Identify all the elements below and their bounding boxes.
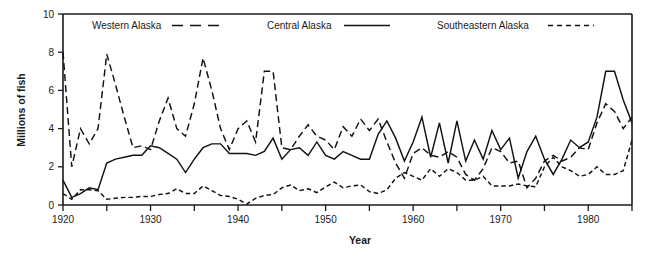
series-line-southeastern-alaska <box>63 140 632 204</box>
data-series-group <box>63 52 632 204</box>
legend-label-western-alaska: Western Alaska <box>92 20 162 31</box>
legend-label-southeastern-alaska: Southeastern Alaska <box>437 20 529 31</box>
y-axis-title: Millions of fish <box>15 73 27 147</box>
y-tick-label-10: 10 <box>43 9 55 20</box>
y-tick-label-4: 4 <box>48 123 54 134</box>
legend-label-central-alaska: Central Alaska <box>267 20 332 31</box>
x-tick-label-1970: 1970 <box>490 214 513 225</box>
y-tick-label-2: 2 <box>48 161 54 172</box>
x-tick-label-1960: 1960 <box>402 214 425 225</box>
y-tick-label-8: 8 <box>48 47 54 58</box>
x-tick-label-1930: 1930 <box>139 214 162 225</box>
chart-figure: 0246810 1920193019401950196019701980 Mil… <box>0 0 650 263</box>
y-axis: 0246810 <box>43 9 63 211</box>
y-tick-label-6: 6 <box>48 85 54 96</box>
x-tick-label-1920: 1920 <box>52 214 75 225</box>
x-axis-title: Year <box>349 234 371 246</box>
x-tick-label-1940: 1940 <box>227 214 250 225</box>
plot-frame <box>63 14 632 205</box>
y-tick-label-0: 0 <box>48 200 54 211</box>
series-line-central-alaska <box>63 71 632 197</box>
line-chart: 0246810 1920193019401950196019701980 Mil… <box>0 0 650 263</box>
x-tick-label-1950: 1950 <box>314 214 337 225</box>
x-tick-label-1980: 1980 <box>577 214 600 225</box>
series-line-western-alaska <box>63 52 632 188</box>
chart-legend: Western AlaskaCentral AlaskaSoutheastern… <box>92 20 594 31</box>
x-axis: 1920193019401950196019701980 <box>52 205 632 225</box>
